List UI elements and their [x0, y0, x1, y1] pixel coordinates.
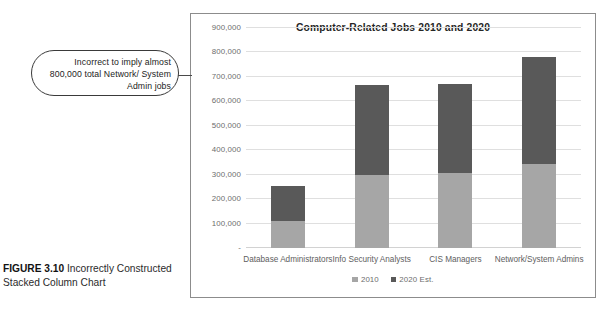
chart-legend: 20102020 Est. — [191, 275, 595, 284]
bar-segment-2010[interactable] — [522, 164, 556, 248]
bar-segment-2020-est[interactable] — [355, 85, 389, 175]
bar-segment-2020-est[interactable] — [438, 84, 472, 173]
callout-annotation-box: Incorrect to imply almost 800,000 total … — [31, 50, 179, 96]
callout-annotation-text: Incorrect to imply almost 800,000 total … — [41, 56, 171, 93]
legend-label: 2020 Est. — [399, 275, 433, 284]
x-axis-category-label: CIS Managers — [408, 254, 502, 265]
bar-group[interactable]: Network/System Admins — [522, 28, 556, 248]
y-axis-tick-label: 700,000 — [212, 71, 241, 80]
y-axis-tick-label: 400,000 — [212, 145, 241, 154]
legend-item[interactable]: 2020 Est. — [391, 275, 434, 284]
x-axis-category-label: Database Administrators — [241, 254, 335, 265]
chart-container: Computer-Related Jobs 2010 and 2020 900,… — [190, 13, 596, 298]
legend-label: 2010 — [361, 275, 379, 284]
y-axis-tick-label: 500,000 — [212, 120, 241, 129]
bar-segment-2010[interactable] — [271, 221, 305, 248]
bar-segment-2010[interactable] — [438, 173, 472, 248]
legend-swatch-icon — [391, 277, 397, 283]
bar-stack[interactable] — [438, 84, 472, 248]
callout-leader-line — [178, 75, 192, 76]
bar-segment-2020-est[interactable] — [522, 57, 556, 164]
figure-caption-label: FIGURE 3.10 — [3, 263, 64, 274]
bar-stack[interactable] — [355, 85, 389, 248]
y-axis-tick-label: - — [238, 243, 241, 252]
plot-area: 900,000800,000700,000600,000500,000400,0… — [246, 28, 581, 248]
x-axis-category-label: Info Security Analysts — [325, 254, 419, 265]
y-axis-tick-label: 300,000 — [212, 169, 241, 178]
figure-caption: FIGURE 3.10 Incorrectly Constructed Stac… — [3, 262, 175, 289]
bar-stack[interactable] — [522, 57, 556, 248]
bar-group[interactable]: Database Administrators — [271, 28, 305, 248]
y-axis-tick-label: 900,000 — [212, 23, 241, 32]
legend-swatch-icon — [352, 277, 358, 283]
bar-segment-2020-est[interactable] — [271, 186, 305, 221]
bar-stack[interactable] — [271, 186, 305, 248]
bar-segment-2010[interactable] — [355, 175, 389, 248]
legend-item[interactable]: 2010 — [352, 275, 378, 284]
bar-group[interactable]: CIS Managers — [438, 28, 472, 248]
y-axis-tick-label: 100,000 — [212, 218, 241, 227]
x-axis-category-label: Network/System Admins — [492, 254, 586, 265]
y-axis-tick-label: 800,000 — [212, 47, 241, 56]
bar-group[interactable]: Info Security Analysts — [355, 28, 389, 248]
y-axis-tick-label: 200,000 — [212, 194, 241, 203]
y-axis-tick-label: 600,000 — [212, 96, 241, 105]
